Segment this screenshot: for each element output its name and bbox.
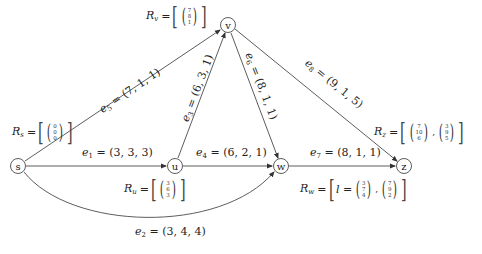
- edge-label-e4: e4 = (6, 2, 1): [196, 147, 267, 160]
- vector: (7106): [408, 122, 431, 142]
- edge-index: 6: [244, 59, 253, 66]
- right-bracket: ]: [179, 177, 185, 201]
- vector: (000): [45, 122, 64, 142]
- edge-value: = (3, 3, 3): [96, 146, 152, 159]
- left-bracket: [: [400, 120, 406, 144]
- label-name: Rw: [300, 182, 314, 196]
- label-Ru: Ru = [ (363) ]: [124, 177, 187, 201]
- left-bracket: [: [328, 177, 334, 201]
- node-u-label: u: [172, 161, 179, 172]
- node-s-label: s: [15, 161, 20, 172]
- edge-index: 2: [142, 231, 146, 239]
- edge-label-e7: e7 = (8, 1, 1): [310, 147, 381, 160]
- vector: (395): [437, 122, 456, 142]
- equals: =: [389, 126, 398, 139]
- label-Rs: Rs = [ (000) ]: [12, 120, 74, 144]
- l-prefix: l =: [336, 183, 352, 196]
- equals: =: [161, 10, 170, 23]
- label-name: Rz: [374, 125, 386, 139]
- right-bracket: ]: [401, 177, 407, 201]
- left-bracket: [: [38, 120, 44, 144]
- edge-index: 4: [203, 152, 207, 160]
- right-bracket: ]: [458, 120, 464, 144]
- equals: =: [317, 183, 326, 196]
- graph-diagram: s u v w z e1 = (3, 3, 3) e2 = (3, 4, 4) …: [0, 0, 482, 254]
- right-bracket: ]: [201, 4, 207, 28]
- edge-value: = (8, 1, 1): [324, 146, 380, 159]
- edge-index: 7: [317, 152, 321, 160]
- label-Rv: Rv = [ (781) ]: [146, 4, 208, 28]
- vector: (792): [380, 179, 399, 199]
- edge-label-e1: e1 = (3, 3, 3): [82, 147, 153, 160]
- edge-value: = (3, 4, 4): [149, 225, 205, 238]
- vector: (363): [158, 179, 177, 199]
- right-bracket: ]: [66, 120, 72, 144]
- label-name: Rs: [12, 125, 24, 139]
- label-name: Rv: [146, 9, 158, 23]
- edge-index: 1: [89, 152, 93, 160]
- label-Rw: Rw = [ l = (374) , (792) ]: [300, 177, 409, 201]
- node-z-label: z: [401, 161, 406, 172]
- left-bracket: [: [172, 4, 178, 28]
- vector: (374): [354, 179, 373, 199]
- label-name: Ru: [124, 182, 137, 196]
- vector: (781): [180, 6, 199, 26]
- equals: =: [140, 183, 149, 196]
- edge-value: = (6, 2, 1): [210, 146, 266, 159]
- node-v-label: v: [224, 20, 231, 31]
- equals: =: [27, 126, 36, 139]
- left-bracket: [: [151, 177, 157, 201]
- node-w-label: w: [277, 161, 286, 172]
- label-Rz: Rz = [ (7106) , (395) ]: [374, 120, 466, 144]
- edge-label-e2: e2 = (3, 4, 4): [135, 226, 206, 239]
